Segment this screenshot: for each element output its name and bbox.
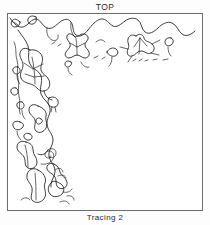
figure-caption: Tracing 2 bbox=[0, 213, 210, 222]
tracing-figure: TOP bbox=[0, 0, 210, 225]
tracing-plate bbox=[7, 13, 203, 211]
tracing-artwork bbox=[8, 14, 202, 210]
top-orientation-label: TOP bbox=[0, 2, 210, 12]
